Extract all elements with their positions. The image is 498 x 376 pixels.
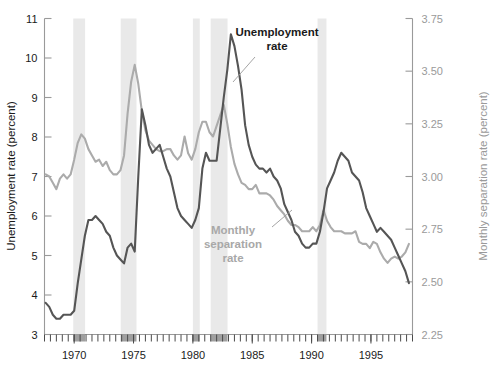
- right-axis-tick-label: 3.25: [422, 118, 443, 130]
- x-axis-tick-label: 1970: [62, 349, 86, 361]
- annotation-unemployment-line2: rate: [266, 40, 287, 52]
- unemployment-separation-line-chart: 34567891011 2.252.502.753.003.253.503.75…: [0, 0, 498, 376]
- left-axis-tick-label: 11: [26, 13, 37, 25]
- annotation-separation-line3: rate: [222, 252, 243, 264]
- right-axis-tick-label: 3.50: [422, 65, 443, 77]
- recession-band-foot: [73, 335, 85, 342]
- recession-band: [73, 19, 85, 335]
- chart-container: 34567891011 2.252.502.753.003.253.503.75…: [0, 0, 498, 376]
- left-axis-tick-label: 9: [31, 92, 37, 104]
- right-axis-tick-label: 2.25: [422, 329, 443, 341]
- annotation-separation-line2: separation: [204, 238, 262, 250]
- right-axis-ticks: 2.252.502.753.003.253.503.75: [406, 13, 443, 341]
- left-axis-tick-label: 3: [31, 329, 37, 341]
- recession-bands: [73, 19, 326, 342]
- annotation-unemployment-rate: Unemployment rate: [233, 26, 319, 82]
- left-axis-tick-label: 8: [31, 131, 37, 143]
- x-axis-tick-label: 1985: [240, 349, 264, 361]
- right-axis-tick-label: 3.00: [422, 171, 443, 183]
- x-axis-tick-label: 1980: [181, 349, 205, 361]
- recession-band-foot: [121, 335, 137, 342]
- right-axis-tick-label: 2.50: [422, 276, 443, 288]
- left-axis-tick-label: 5: [31, 250, 37, 262]
- recession-band-foot: [211, 335, 228, 342]
- right-axis-tick-label: 2.75: [422, 223, 443, 235]
- right-axis-title: Monthly separation rate (percent): [477, 91, 489, 261]
- recession-band-foot: [318, 335, 327, 342]
- annotation-separation-line1: Monthly: [211, 224, 256, 236]
- left-axis-tick-label: 6: [31, 210, 37, 222]
- recession-band: [193, 19, 200, 335]
- left-axis-tick-label: 7: [31, 171, 37, 183]
- annotation-unemployment-line1: Unemployment: [235, 26, 318, 38]
- x-axis-tick-label: 1995: [359, 349, 383, 361]
- recession-band: [318, 19, 327, 335]
- x-axis-tick-label: 1990: [299, 349, 323, 361]
- left-axis-tick-label: 4: [31, 289, 37, 301]
- x-axis-tick-label: 1975: [121, 349, 145, 361]
- x-axis-tick-labels: 197019751980198519901995: [62, 349, 383, 361]
- x-axis-minor-ticks: [45, 335, 413, 342]
- recession-band: [211, 19, 228, 335]
- right-axis-tick-label: 3.75: [422, 13, 443, 25]
- left-axis-tick-label: 10: [25, 52, 37, 64]
- left-axis-title: Unemployment rate (percent): [5, 101, 17, 251]
